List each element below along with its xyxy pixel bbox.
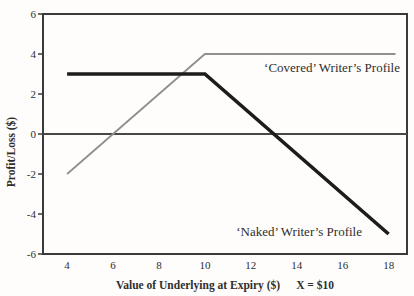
plot-area [0, 0, 414, 296]
x-tick-label: 16 [337, 258, 348, 272]
naked-writer-series-label: ‘Naked’ Writer’s Profile [236, 224, 362, 240]
x-tick-label: 10 [199, 258, 210, 272]
y-tick-label: 2 [31, 87, 37, 101]
x-axis-title: Value of Underlying at Expiry ($) [116, 279, 280, 291]
x-axis-title-row: Value of Underlying at Expiry ($) X = $1… [43, 279, 407, 291]
y-tick-label: 6 [31, 7, 37, 21]
y-tick-label: -2 [27, 167, 36, 181]
x-tick-label: 12 [245, 258, 256, 272]
profit-loss-chart: 6420-2-4-6 4681012141618 Profit/Loss ($)… [0, 0, 414, 296]
x-tick-label: 8 [156, 258, 162, 272]
y-tick-label: -6 [27, 247, 36, 261]
naked-writer-s-profile-line [67, 74, 389, 234]
y-tick-label: 0 [31, 127, 37, 141]
y-tick-label: 4 [31, 47, 37, 61]
strike-price-note: X = $10 [296, 279, 334, 291]
y-axis-title: Profit/Loss ($) [5, 117, 17, 187]
x-tick-label: 4 [64, 258, 70, 272]
x-tick-label: 6 [110, 258, 116, 272]
y-tick-label: -4 [27, 207, 36, 221]
x-tick-label: 14 [291, 258, 302, 272]
covered-writer-series-label: ‘Covered’ Writer’s Profile [264, 60, 400, 76]
x-tick-label: 18 [383, 258, 394, 272]
